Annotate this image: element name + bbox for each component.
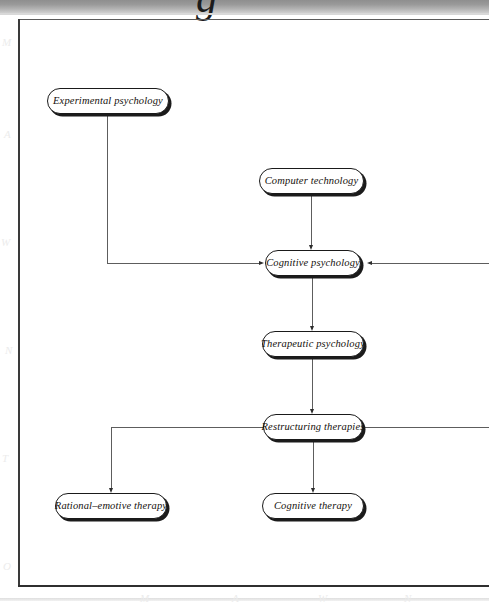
- page-frame-bottom-border: [18, 585, 489, 587]
- node-label: Cognitive therapy: [274, 501, 352, 512]
- edge-offpage-to-cognitive: [372, 263, 489, 264]
- arrowhead-into-cognitive-psychology-right: [367, 261, 372, 265]
- node-label: Rational–emotive therapy: [55, 501, 167, 512]
- watermark-mark: A: [232, 592, 239, 604]
- watermark-mark: T: [2, 452, 8, 464]
- page-frame-left-border: [18, 19, 20, 586]
- watermark-mark: N: [404, 592, 411, 604]
- node-label: Experimental psychology: [53, 96, 163, 107]
- arrowhead-into-cognitive-psychology-left: [259, 261, 264, 265]
- scanned-page: g M A W N T O M A W N Experimental psych…: [0, 0, 489, 609]
- watermark-mark: M: [140, 592, 149, 604]
- edge-cognitive-to-therapeutic: [312, 276, 313, 326]
- node-label: Computer technology: [265, 176, 359, 187]
- node-computer-technology[interactable]: Computer technology: [259, 168, 364, 194]
- edge-restructuring-to-rational-vertical: [111, 427, 112, 488]
- scan-gray-band: g: [0, 0, 489, 13]
- node-experimental-psychology[interactable]: Experimental psychology: [47, 88, 169, 114]
- node-label: Therapeutic psychology: [261, 339, 365, 350]
- node-cognitive-psychology[interactable]: Cognitive psychology: [265, 250, 361, 276]
- node-therapeutic-psychology[interactable]: Therapeutic psychology: [262, 331, 364, 357]
- watermark-mark: M: [2, 36, 11, 48]
- edge-computer-to-cognitive: [311, 194, 312, 245]
- page-frame-top-border: [18, 19, 489, 20]
- edge-experimental-to-cognitive-horizontal: [107, 263, 259, 264]
- node-restructuring-therapies[interactable]: Restructuring therapies: [263, 414, 363, 440]
- edge-restructuring-to-rational-horizontal: [111, 427, 263, 428]
- node-rational-emotive-therapy[interactable]: Rational–emotive therapy: [55, 493, 167, 519]
- node-cognitive-therapy[interactable]: Cognitive therapy: [262, 493, 364, 519]
- edge-restructuring-to-offpage: [363, 427, 489, 428]
- node-label: Restructuring therapies: [262, 422, 365, 433]
- page-bottom-scan-edge: [0, 598, 489, 601]
- edge-restructuring-to-cognitive-therapy: [313, 440, 314, 488]
- node-label: Cognitive psychology: [266, 258, 360, 269]
- watermark-mark: A: [4, 128, 11, 140]
- scan-band-edge: [0, 13, 489, 15]
- watermark-mark: N: [5, 344, 12, 356]
- watermark-mark: O: [3, 560, 11, 572]
- watermark-mark: W: [318, 592, 327, 604]
- edge-therapeutic-to-restructuring: [312, 357, 313, 409]
- edge-experimental-to-cognitive-vertical: [107, 114, 108, 263]
- watermark-mark: W: [1, 236, 10, 248]
